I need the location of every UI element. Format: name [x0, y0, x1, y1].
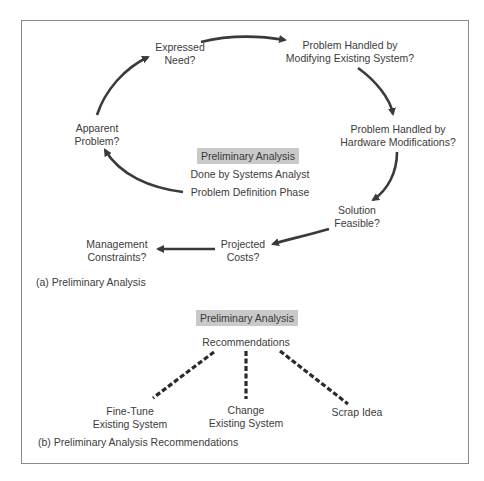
option-scrap-idea: Scrap Idea: [322, 406, 392, 419]
dashed-line-scrap: [280, 351, 348, 404]
recommendations-subtitle: Recommendations: [196, 336, 296, 349]
node-projected-costs: Projected Costs?: [213, 238, 273, 264]
center-title-highlight: Preliminary Analysis: [197, 148, 299, 164]
dashed-line-fine-tune: [153, 352, 214, 398]
caption-a: (a) Preliminary Analysis: [36, 276, 146, 289]
option-change-existing: Change Existing System: [206, 404, 286, 430]
caption-b: (b) Preliminary Analysis Recommendations: [38, 436, 238, 449]
arrow-modifying-to-hardware: [358, 68, 393, 114]
node-modifying-existing-system: Problem Handled by Modifying Existing Sy…: [280, 39, 420, 65]
arrow-apparent-to-expressed: [97, 57, 148, 115]
arrow-solution-to-projected: [273, 229, 329, 244]
node-hardware-modifications: Problem Handled by Hardware Modification…: [333, 123, 463, 149]
center-line-1: Done by Systems Analyst: [185, 168, 315, 181]
center-line-2: Problem Definition Phase: [185, 186, 315, 199]
node-apparent-problem: Apparent Problem?: [67, 122, 127, 148]
node-solution-feasible: Solution Feasible?: [327, 204, 387, 230]
node-expressed-need: Expressed Need?: [145, 41, 215, 67]
arrow-center-to-apparent: [105, 150, 183, 192]
recommendations-title-highlight: Preliminary Analysis: [196, 310, 298, 326]
option-fine-tune: Fine-Tune Existing System: [90, 405, 170, 431]
arrow-hardware-to-solution: [373, 152, 397, 200]
node-management-constraints: Management Constraints?: [82, 238, 152, 264]
